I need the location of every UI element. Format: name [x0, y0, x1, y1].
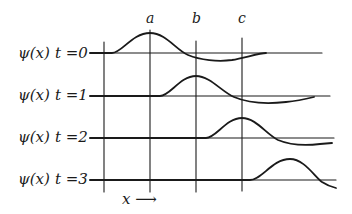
marker-b-label: b: [192, 10, 201, 26]
wave-t1: [90, 76, 314, 103]
row-3-time: t =3: [55, 170, 88, 188]
wave-t0: [90, 33, 266, 61]
wave-diagram: a b c ψ(x) t =0 ψ(x) t =1 ψ(x) t =2 ψ(x)…: [0, 0, 352, 214]
row-0-func: ψ(x): [18, 44, 50, 62]
row-0-time: t =0: [55, 44, 88, 62]
row-2-func: ψ(x): [18, 128, 50, 146]
row-1-func: ψ(x): [18, 86, 50, 104]
wave-curves: [90, 33, 336, 188]
row-1-time: t =1: [55, 86, 88, 104]
wave-t2: [90, 118, 332, 145]
row-labels: ψ(x) t =0 ψ(x) t =1 ψ(x) t =2 ψ(x) t =3: [18, 44, 88, 188]
x-axis-label: x ⟶: [122, 190, 157, 208]
vertical-grid-lines: [104, 30, 242, 192]
wave-t3: [90, 159, 336, 188]
x-axis-text: x ⟶: [122, 190, 157, 208]
marker-a-label: a: [146, 10, 154, 26]
marker-c-label: c: [238, 10, 246, 26]
row-2-time: t =2: [55, 128, 88, 146]
row-3-func: ψ(x): [18, 170, 50, 188]
